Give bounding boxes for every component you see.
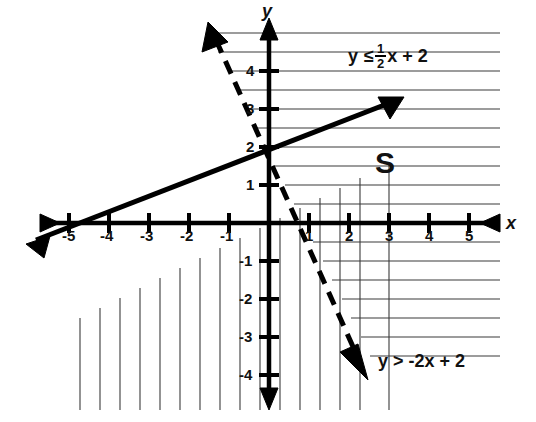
inequality-1-relation: ≤ [364, 47, 374, 65]
x-tick-label-3: 3 [385, 228, 393, 243]
x-axis-right-arrow [480, 214, 500, 232]
x-tick-label-4: 4 [425, 228, 433, 243]
y-tick-label--4: -4 [239, 367, 252, 382]
x-axis-label: x [506, 214, 516, 232]
x-tick-label--5: -5 [62, 228, 75, 243]
y-axis-label: y [262, 2, 272, 20]
inequality-1-fraction: 1 2 [375, 42, 386, 71]
y-tick-label-3: 3 [246, 101, 254, 116]
x-tick-label--2: -2 [180, 228, 193, 243]
y-tick-label--1: -1 [239, 253, 252, 268]
y-tick-label-4: 4 [246, 63, 254, 78]
dashed-boundary-line [202, 22, 368, 380]
inequality-label-1: y ≤ 1 2 x + 2 [348, 42, 428, 71]
fraction-numerator: 1 [375, 42, 386, 55]
x-tick-label-5: 5 [465, 228, 473, 243]
dashed-line-up-arrow [202, 22, 228, 52]
vertical-shading-lines [80, 163, 389, 410]
fraction-denominator: 2 [375, 55, 386, 70]
inequality-1-rhs: x + 2 [387, 47, 428, 65]
x-tick-label--4: -4 [100, 228, 113, 243]
x-tick-label-1: 1 [305, 228, 313, 243]
graph-figure: y x -5 -4 -3 -2 -1 1 2 3 4 5 4 3 2 1 -1 … [0, 0, 536, 422]
x-tick-label-2: 2 [345, 228, 353, 243]
region-label-s: S [375, 148, 395, 178]
inequality-1-lhs: y [348, 47, 358, 65]
y-tick-label-2: 2 [246, 139, 254, 154]
y-tick-label--3: -3 [239, 329, 252, 344]
horizontal-shading-lines [209, 33, 500, 356]
y-axis [259, 18, 279, 410]
dashed-line-down-arrow [340, 344, 368, 380]
inequality-label-2: y > -2x + 2 [378, 352, 465, 370]
y-tick-label--2: -2 [239, 291, 252, 306]
y-axis-bottom-arrow [260, 388, 278, 410]
x-tick-label--3: -3 [140, 228, 153, 243]
x-tick-label--1: -1 [220, 228, 233, 243]
y-tick-label-1: 1 [246, 177, 254, 192]
y-axis-top-arrow [260, 18, 278, 40]
